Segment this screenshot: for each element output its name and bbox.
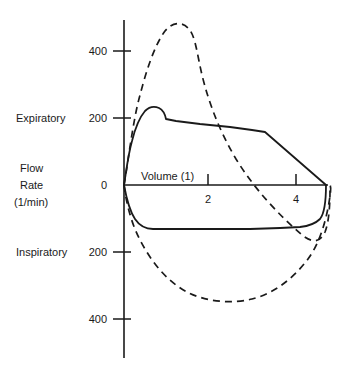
region-label-expiratory: Expiratory [16,112,66,124]
x-tick-label-2: 2 [205,193,211,205]
predicted-normal-expiratory-curve [124,24,330,241]
y-axis-title-line2: Rate [20,179,43,191]
y-axis-title-line3: (1/min) [14,196,48,208]
x-tick-label-4: 4 [293,193,299,205]
y-tick-label-400-lower: 400 [89,313,107,325]
y-axis-title-line1: Flow [20,162,43,174]
x-axis-title: Volume (1) [141,170,194,182]
region-label-inspiratory: Inspiratory [16,246,68,258]
y-tick-label-400-upper: 400 [89,45,107,57]
predicted-normal-inspiratory-curve [124,185,331,302]
obstructed-inspiratory-curve [124,185,326,229]
y-tick-label-200-upper: 200 [89,112,107,124]
y-tick-label-0: 0 [101,179,107,191]
y-tick-label-200-lower: 200 [89,246,107,258]
flow-volume-loop-figure: 400 200 0 200 400 2 4 Volume (1) Expirat… [0,0,351,369]
chart-canvas: 400 200 0 200 400 2 4 Volume (1) Expirat… [0,0,351,369]
